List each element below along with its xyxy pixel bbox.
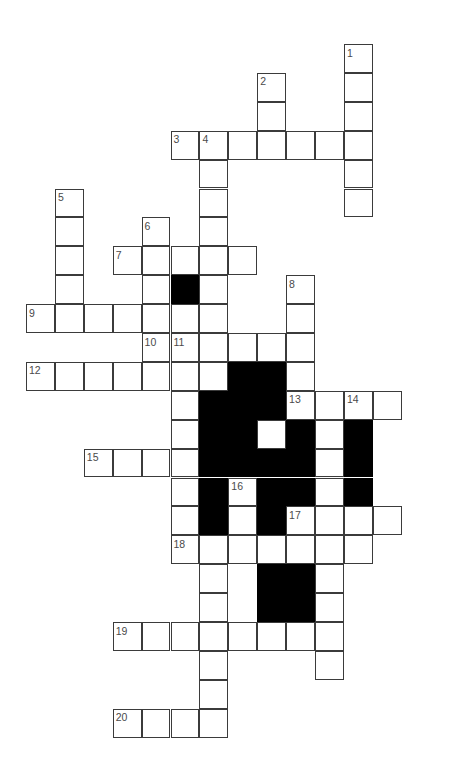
crossword-letter-cell[interactable] [286,304,315,333]
crossword-letter-cell[interactable] [257,73,286,102]
crossword-letter-cell[interactable] [55,189,84,218]
crossword-letter-cell[interactable] [315,593,344,622]
crossword-letter-cell[interactable] [199,275,228,304]
crossword-letter-cell[interactable] [344,102,373,131]
crossword-letter-cell[interactable] [84,304,113,333]
crossword-letter-cell[interactable] [228,535,257,564]
crossword-letter-cell[interactable] [286,535,315,564]
crossword-letter-cell[interactable] [171,420,200,449]
crossword-letter-cell[interactable] [286,506,315,535]
crossword-letter-cell[interactable] [257,131,286,160]
crossword-letter-cell[interactable] [199,160,228,189]
crossword-letter-cell[interactable] [228,246,257,275]
crossword-letter-cell[interactable] [55,362,84,391]
crossword-letter-cell[interactable] [344,506,373,535]
crossword-letter-cell[interactable] [142,275,171,304]
crossword-letter-cell[interactable] [113,246,142,275]
crossword-letter-cell[interactable] [113,449,142,478]
crossword-letter-cell[interactable] [286,131,315,160]
crossword-letter-cell[interactable] [171,304,200,333]
crossword-letter-cell[interactable] [55,304,84,333]
crossword-letter-cell[interactable] [286,391,315,420]
crossword-letter-cell[interactable] [315,564,344,593]
crossword-letter-cell[interactable] [315,478,344,507]
crossword-letter-cell[interactable] [142,333,171,362]
crossword-letter-cell[interactable] [373,391,402,420]
crossword-letter-cell[interactable] [142,622,171,651]
crossword-letter-cell[interactable] [26,304,55,333]
crossword-letter-cell[interactable] [171,535,200,564]
crossword-letter-cell[interactable] [199,333,228,362]
crossword-letter-cell[interactable] [84,449,113,478]
crossword-letter-cell[interactable] [199,217,228,246]
crossword-letter-cell[interactable] [344,189,373,218]
crossword-letter-cell[interactable] [286,362,315,391]
crossword-letter-cell[interactable] [171,391,200,420]
crossword-letter-cell[interactable] [171,246,200,275]
crossword-letter-cell[interactable] [199,246,228,275]
crossword-letter-cell[interactable] [26,362,55,391]
crossword-letter-cell[interactable] [257,102,286,131]
crossword-letter-cell[interactable] [315,506,344,535]
crossword-letter-cell[interactable] [344,131,373,160]
crossword-letter-cell[interactable] [84,362,113,391]
crossword-letter-cell[interactable] [315,622,344,651]
crossword-letter-cell[interactable] [199,651,228,680]
crossword-letter-cell[interactable] [199,535,228,564]
crossword-letter-cell[interactable] [199,622,228,651]
crossword-letter-cell[interactable] [142,449,171,478]
crossword-letter-cell[interactable] [113,709,142,738]
crossword-letter-cell[interactable] [55,217,84,246]
crossword-letter-cell[interactable] [228,131,257,160]
crossword-letter-cell[interactable] [228,333,257,362]
crossword-letter-cell[interactable] [344,391,373,420]
crossword-letter-cell[interactable] [228,506,257,535]
crossword-letter-cell[interactable] [199,304,228,333]
crossword-letter-cell[interactable] [344,44,373,73]
crossword-letter-cell[interactable] [315,535,344,564]
crossword-letter-cell[interactable] [199,593,228,622]
crossword-letter-cell[interactable] [315,420,344,449]
crossword-letter-cell[interactable] [113,622,142,651]
crossword-letter-cell[interactable] [171,362,200,391]
crossword-letter-cell[interactable] [171,506,200,535]
crossword-letter-cell[interactable] [142,217,171,246]
crossword-letter-cell[interactable] [142,304,171,333]
crossword-letter-cell[interactable] [257,535,286,564]
crossword-letter-cell[interactable] [199,564,228,593]
crossword-letter-cell[interactable] [315,391,344,420]
crossword-letter-cell[interactable] [228,478,257,507]
crossword-letter-cell[interactable] [286,333,315,362]
crossword-letter-cell[interactable] [286,622,315,651]
crossword-letter-cell[interactable] [315,449,344,478]
crossword-letter-cell[interactable] [171,333,200,362]
crossword-letter-cell[interactable] [199,189,228,218]
crossword-letter-cell[interactable] [171,131,200,160]
crossword-letter-cell[interactable] [113,304,142,333]
crossword-letter-cell[interactable] [142,246,171,275]
crossword-letter-cell[interactable] [142,362,171,391]
crossword-letter-cell[interactable] [142,709,171,738]
crossword-letter-cell[interactable] [199,680,228,709]
crossword-letter-cell[interactable] [55,246,84,275]
crossword-letter-cell[interactable] [199,362,228,391]
crossword-letter-cell[interactable] [373,506,402,535]
crossword-letter-cell[interactable] [171,622,200,651]
crossword-grid[interactable]: 1234567891011121314151617181920 [0,0,454,774]
crossword-letter-cell[interactable] [171,449,200,478]
crossword-letter-cell[interactable] [344,160,373,189]
crossword-letter-cell[interactable] [257,420,286,449]
crossword-letter-cell[interactable] [344,73,373,102]
crossword-letter-cell[interactable] [55,275,84,304]
crossword-letter-cell[interactable] [257,622,286,651]
crossword-letter-cell[interactable] [199,709,228,738]
crossword-letter-cell[interactable] [257,333,286,362]
crossword-letter-cell[interactable] [228,622,257,651]
crossword-letter-cell[interactable] [286,275,315,304]
crossword-letter-cell[interactable] [171,709,200,738]
crossword-letter-cell[interactable] [315,131,344,160]
crossword-letter-cell[interactable] [113,362,142,391]
crossword-letter-cell[interactable] [344,535,373,564]
crossword-letter-cell[interactable] [315,651,344,680]
crossword-letter-cell[interactable] [199,131,228,160]
